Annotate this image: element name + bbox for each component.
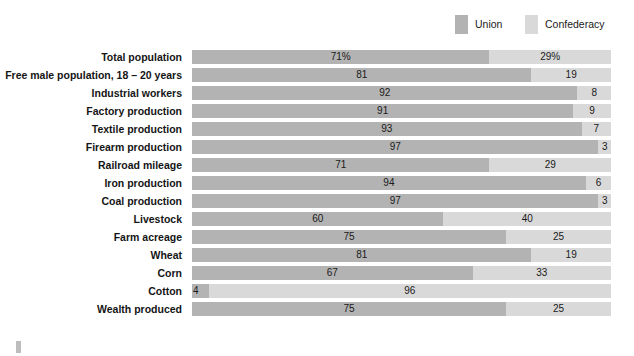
chart-row-label: Textile production [0, 122, 182, 136]
chart-legend: Union Confederacy [0, 13, 634, 35]
bar-value-union: 67 [192, 266, 473, 280]
bottom-left-marker [16, 341, 21, 353]
chart-row-bar: 8119 [192, 248, 611, 262]
chart-row-label: Industrial workers [0, 86, 182, 100]
bar-value-confederacy: 25 [506, 230, 611, 244]
chart-row-bar: 8119 [192, 68, 611, 82]
legend-swatch-confederacy-icon [525, 15, 538, 34]
chart-row: Factory production919 [0, 104, 634, 122]
chart-row-bar: 496 [192, 284, 611, 298]
chart-row: Total population71%29% [0, 50, 634, 68]
chart-row-bar: 946 [192, 176, 611, 190]
bar-value-confederacy: 9 [573, 104, 611, 118]
chart-row: Farm acreage7525 [0, 230, 634, 248]
bar-value-confederacy: 40 [443, 212, 611, 226]
chart-row-bar: 6040 [192, 212, 611, 226]
bar-segment-confederacy: 96 [209, 284, 611, 298]
bar-segment-union: 97 [192, 140, 598, 154]
bar-segment-confederacy: 3 [598, 194, 611, 208]
chart-row: Corn6733 [0, 266, 634, 284]
legend-label-confederacy: Confederacy [545, 19, 605, 30]
bar-segment-union: 71% [192, 50, 489, 64]
chart-row-label: Cotton [0, 284, 182, 298]
bar-segment-union: 75 [192, 230, 506, 244]
bar-segment-union: 75 [192, 302, 506, 316]
bar-segment-confederacy: 25 [506, 302, 611, 316]
bar-value-confederacy: 6 [586, 176, 611, 190]
chart-row: Railroad mileage7129 [0, 158, 634, 176]
chart-row-label: Livestock [0, 212, 182, 226]
bar-segment-union: 81 [192, 248, 531, 262]
bar-value-union: 81 [192, 68, 531, 82]
bar-value-confederacy: 19 [531, 68, 611, 82]
bar-segment-union: 93 [192, 122, 582, 136]
chart-row-label: Firearm production [0, 140, 182, 154]
bar-value-union: 71% [192, 50, 489, 64]
bar-value-union: 71 [192, 158, 489, 172]
chart-row-label: Wealth produced [0, 302, 182, 316]
bar-value-confederacy: 8 [577, 86, 611, 100]
chart-row: Free male population, 18 – 20 years8119 [0, 68, 634, 86]
chart-row: Coal production973 [0, 194, 634, 212]
bar-segment-confederacy: 40 [443, 212, 611, 226]
bar-segment-confederacy: 9 [573, 104, 611, 118]
bar-segment-union: 71 [192, 158, 489, 172]
bar-segment-confederacy: 19 [531, 248, 611, 262]
chart-row-bar: 928 [192, 86, 611, 100]
bar-value-confederacy: 29% [489, 50, 611, 64]
chart-row-label: Iron production [0, 176, 182, 190]
chart-row-label: Wheat [0, 248, 182, 262]
bar-segment-union: 81 [192, 68, 531, 82]
chart-row: Textile production937 [0, 122, 634, 140]
stacked-bar-chart: Total population71%29%Free male populati… [0, 50, 634, 320]
chart-row-bar: 71%29% [192, 50, 611, 64]
bar-segment-confederacy: 19 [531, 68, 611, 82]
bar-segment-union: 91 [192, 104, 573, 118]
legend-item-confederacy: Confederacy [525, 13, 605, 35]
chart-row-label: Coal production [0, 194, 182, 208]
bar-value-union: 81 [192, 248, 531, 262]
bar-segment-confederacy: 6 [586, 176, 611, 190]
legend-swatch-union-icon [455, 15, 468, 34]
chart-row: Livestock6040 [0, 212, 634, 230]
bar-value-confederacy: 19 [531, 248, 611, 262]
bar-value-union: 97 [192, 194, 598, 208]
bar-value-confederacy: 3 [598, 140, 611, 154]
bar-value-confederacy: 7 [582, 122, 611, 136]
bar-segment-union: 97 [192, 194, 598, 208]
chart-row-label: Farm acreage [0, 230, 182, 244]
chart-row-label: Total population [0, 50, 182, 64]
bar-segment-confederacy: 7 [582, 122, 611, 136]
legend-item-union: Union [455, 13, 502, 35]
bar-segment-confederacy: 33 [473, 266, 611, 280]
chart-row-bar: 7525 [192, 302, 611, 316]
bar-segment-confederacy: 8 [577, 86, 611, 100]
chart-row: Wheat8119 [0, 248, 634, 266]
bar-value-union: 93 [192, 122, 582, 136]
chart-row-bar: 7129 [192, 158, 611, 172]
bar-value-confederacy: 96 [209, 284, 611, 298]
bar-segment-union: 92 [192, 86, 577, 100]
legend-label-union: Union [475, 19, 502, 30]
bar-segment-union: 60 [192, 212, 443, 226]
chart-row-label: Railroad mileage [0, 158, 182, 172]
chart-row-bar: 973 [192, 194, 611, 208]
chart-row: Iron production946 [0, 176, 634, 194]
bar-value-union: 4 [192, 284, 199, 298]
bar-segment-union: 4 [192, 284, 209, 298]
bar-value-union: 60 [192, 212, 443, 226]
bar-value-confederacy: 25 [506, 302, 611, 316]
chart-row-bar: 919 [192, 104, 611, 118]
chart-row-label: Corn [0, 266, 182, 280]
bar-value-union: 97 [192, 140, 598, 154]
chart-row: Wealth produced7525 [0, 302, 634, 320]
bar-segment-confederacy: 25 [506, 230, 611, 244]
bar-segment-union: 67 [192, 266, 473, 280]
chart-row-bar: 7525 [192, 230, 611, 244]
chart-row-bar: 973 [192, 140, 611, 154]
bar-segment-confederacy: 3 [598, 140, 611, 154]
bar-value-confederacy: 3 [598, 194, 611, 208]
chart-row: Industrial workers928 [0, 86, 634, 104]
bar-segment-confederacy: 29% [489, 50, 611, 64]
bar-value-confederacy: 29 [489, 158, 611, 172]
